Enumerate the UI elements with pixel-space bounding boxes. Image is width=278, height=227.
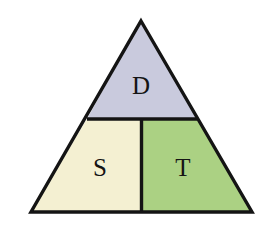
region-label-s: S [93, 154, 107, 181]
region-label-t: T [175, 154, 190, 181]
region-top-fill[interactable] [87, 21, 197, 119]
diagram-canvas: D S T [0, 0, 278, 227]
region-bottom-left-fill[interactable] [31, 119, 142, 212]
region-label-d: D [132, 72, 150, 99]
triangle-diagram: D S T [0, 0, 278, 227]
region-bottom-right-fill[interactable] [142, 119, 253, 212]
